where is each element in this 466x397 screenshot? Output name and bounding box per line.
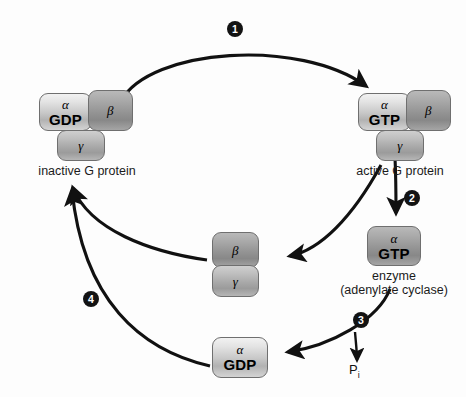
beta-symbol: β <box>232 244 239 257</box>
inorganic-phosphate-label: Pi <box>349 362 360 380</box>
free-beta-subunit: β <box>212 232 259 268</box>
inactive-alpha-subunit: α GDP <box>39 93 92 131</box>
step-badge-1: 1 <box>227 21 243 37</box>
alpha-symbol: α <box>236 343 243 356</box>
alpha-gdp-subunit: α GDP <box>212 337 268 378</box>
alpha-symbol: α <box>62 98 69 111</box>
enzyme-caption-line-2: (adenylate cyclase) <box>321 283 466 297</box>
alpha-nucleotide-label: GTP <box>369 112 400 127</box>
phosphate-symbol: P <box>349 362 358 377</box>
arrow-step-3 <box>288 289 390 352</box>
inactive-gamma-subunit: γ <box>57 130 105 161</box>
phosphate-subscript: i <box>358 370 360 380</box>
alpha-nucleotide-label: GDP <box>49 112 82 127</box>
gamma-symbol: γ <box>78 139 83 152</box>
active-gamma-subunit: γ <box>376 130 424 161</box>
alpha-symbol: α <box>381 98 388 111</box>
arrow-betagamma-reassoc <box>73 188 207 260</box>
enzyme-caption: enzyme (adenylate cyclase) <box>321 269 466 297</box>
step-badge-2: 2 <box>404 190 420 206</box>
active-beta-subunit: β <box>406 90 451 131</box>
alpha-nucleotide-label: GDP <box>223 357 256 372</box>
arrow-step-1 <box>121 55 366 101</box>
step-badge-4: 4 <box>83 291 99 307</box>
alpha-gtp-subunit: α GTP <box>367 226 421 266</box>
gamma-symbol: γ <box>397 139 402 152</box>
active-alpha-subunit: α GTP <box>358 93 411 131</box>
alpha-symbol: α <box>390 232 397 245</box>
free-gamma-subunit: γ <box>212 265 259 297</box>
inactive-beta-subunit: β <box>88 90 133 131</box>
g-protein-cycle-diagram: α GDP β γ inactive G protein α GTP β γ a… <box>0 0 466 397</box>
enzyme-caption-line-1: enzyme <box>321 269 466 283</box>
alpha-nucleotide-label: GTP <box>378 246 409 261</box>
beta-symbol: β <box>425 104 432 117</box>
gamma-symbol: γ <box>233 275 238 288</box>
inactive-g-protein-caption: inactive G protein <box>17 164 157 178</box>
beta-symbol: β <box>107 104 114 117</box>
arrow-phosphate-release <box>355 332 357 360</box>
step-badge-3: 3 <box>353 312 369 328</box>
active-g-protein-caption: active G protein <box>335 164 465 178</box>
